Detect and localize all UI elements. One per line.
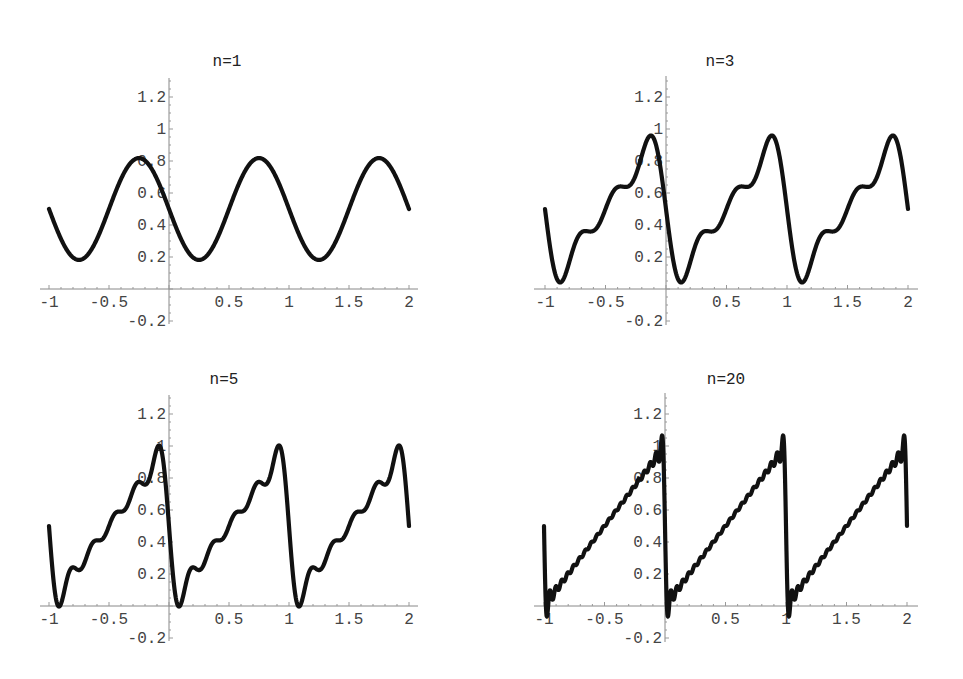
x-tick-label: 1 bbox=[284, 611, 294, 629]
x-tick-label: 0.5 bbox=[711, 611, 740, 629]
x-tick-label: 2 bbox=[902, 611, 912, 629]
series-curve bbox=[545, 136, 908, 283]
x-tick-label: 0.5 bbox=[712, 294, 741, 312]
y-tick-label: 0.4 bbox=[633, 534, 662, 552]
series-curve bbox=[544, 436, 907, 617]
y-tick-label: 1.2 bbox=[137, 406, 166, 424]
y-tick-label: 1.2 bbox=[137, 89, 166, 107]
y-tick-label: -0.2 bbox=[625, 313, 663, 331]
x-tick-label: 2 bbox=[903, 294, 913, 312]
x-tick-label: 1.5 bbox=[833, 294, 862, 312]
x-tick-label: 0.5 bbox=[215, 294, 244, 312]
y-tick-label: 1.2 bbox=[634, 89, 663, 107]
panel-n5: n=5 -1-0.50.511.52-0.20.20.40.60.811.2 bbox=[39, 371, 418, 648]
y-tick-label: 0.4 bbox=[137, 534, 166, 552]
panel-title: n=20 bbox=[707, 371, 745, 389]
panel-title: n=3 bbox=[706, 53, 735, 71]
x-tick-label: 1 bbox=[284, 294, 294, 312]
x-tick-label: -1 bbox=[39, 611, 58, 629]
y-tick-label: 0.2 bbox=[137, 566, 166, 584]
panel-n3: n=3 -1-0.50.511.52-0.20.20.40.60.811.2 bbox=[534, 53, 918, 331]
y-tick-label: 0.2 bbox=[634, 249, 663, 267]
y-tick-label: 1.2 bbox=[633, 406, 662, 424]
x-tick-label: 2 bbox=[404, 611, 414, 629]
y-tick-label: 0.6 bbox=[633, 502, 662, 520]
series-curve bbox=[49, 445, 409, 606]
y-tick-label: -0.2 bbox=[128, 313, 166, 331]
x-tick-label: -0.5 bbox=[90, 611, 128, 629]
y-tick-label: -0.2 bbox=[128, 630, 166, 648]
x-tick-label: -1 bbox=[39, 294, 58, 312]
x-tick-label: 1.5 bbox=[832, 611, 861, 629]
x-tick-label: 2 bbox=[404, 294, 414, 312]
panel-n1: n=1 -1-0.50.511.52-0.20.20.40.60.811.2 bbox=[39, 53, 418, 331]
panel-n20: n=20 -1-0.50.511.52-0.20.20.40.60.811.2 bbox=[534, 371, 918, 648]
panel-title: n=1 bbox=[213, 53, 242, 71]
y-tick-label: 0.4 bbox=[137, 217, 166, 235]
x-tick-label: 1.5 bbox=[335, 294, 364, 312]
x-tick-label: -0.5 bbox=[586, 294, 624, 312]
x-tick-label: -0.5 bbox=[585, 611, 623, 629]
y-tick-label: 1 bbox=[156, 121, 166, 139]
y-tick-label: 0.4 bbox=[634, 217, 663, 235]
y-tick-label: 0.6 bbox=[634, 185, 663, 203]
x-tick-label: -1 bbox=[535, 294, 554, 312]
x-tick-label: -0.5 bbox=[90, 294, 128, 312]
x-tick-label: 1.5 bbox=[335, 611, 364, 629]
series-curve bbox=[49, 158, 409, 260]
y-tick-label: 0.2 bbox=[633, 566, 662, 584]
x-tick-label: -1 bbox=[534, 611, 553, 629]
y-tick-label: 0.2 bbox=[137, 249, 166, 267]
y-tick-label: -0.2 bbox=[624, 630, 662, 648]
fourier-sawtooth-figure: n=1 -1-0.50.511.52-0.20.20.40.60.811.2 n… bbox=[0, 0, 963, 679]
panel-title: n=5 bbox=[210, 371, 239, 389]
y-tick-label: 0.6 bbox=[137, 502, 166, 520]
x-tick-label: 0.5 bbox=[215, 611, 244, 629]
x-tick-label: 1 bbox=[782, 294, 792, 312]
